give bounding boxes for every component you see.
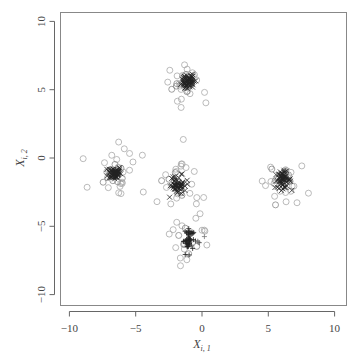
outlier-point	[127, 150, 133, 156]
x-tick-label: −10	[61, 322, 79, 334]
core-point	[180, 171, 185, 176]
y-tick-label: −5	[35, 220, 47, 232]
outlier-point	[177, 255, 183, 261]
outlier-point	[193, 215, 199, 221]
outlier-point	[105, 185, 111, 191]
outlier-point	[193, 201, 199, 207]
outlier-point	[154, 199, 160, 205]
outlier-point	[174, 73, 180, 79]
outlier-point	[159, 178, 165, 184]
outlier-point	[127, 167, 133, 173]
outlier-point	[167, 67, 173, 73]
outlier-point	[174, 219, 180, 225]
outlier-point	[109, 152, 115, 158]
outlier-point	[202, 89, 208, 95]
core-point	[202, 234, 207, 239]
y-tick-label: 5	[35, 86, 47, 92]
outlier-point	[176, 232, 182, 238]
outlier-point	[269, 166, 275, 172]
outlier-point	[139, 152, 145, 158]
data-points	[80, 62, 311, 269]
cluster-right	[259, 163, 311, 208]
outlier-point	[80, 156, 86, 162]
outlier-point	[140, 189, 146, 195]
y-axis: −10−50510	[35, 15, 55, 303]
x-tick-label: 5	[266, 322, 272, 334]
cluster-bottom	[170, 211, 210, 269]
outlier-point	[177, 263, 183, 269]
outlier-point	[84, 184, 90, 190]
cluster-left	[80, 139, 146, 197]
y-axis-title: Xi, 2	[13, 149, 29, 168]
outlier-point	[299, 163, 305, 169]
outlier-point	[187, 190, 193, 196]
outlier-point	[191, 168, 197, 174]
outlier-point	[201, 194, 207, 200]
outlier-point	[178, 104, 184, 110]
cluster-top	[165, 62, 209, 111]
outlier-point	[121, 146, 127, 152]
outlier-point	[130, 159, 136, 165]
scatter-chart: −10−50510 −10−50510 Xi, 1 Xi, 2	[0, 0, 357, 355]
x-tick-label: 0	[199, 322, 205, 334]
core-point	[167, 195, 172, 200]
x-axis: −10−50510	[61, 312, 341, 334]
outlier-point	[194, 195, 200, 201]
outlier-point	[305, 190, 311, 196]
outlier-point	[165, 79, 171, 85]
outlier-point	[186, 251, 192, 257]
outlier-point	[168, 201, 174, 207]
plot-frame	[61, 13, 347, 306]
x-tick-label: 10	[329, 322, 341, 334]
x-axis-title: Xi, 1	[192, 337, 211, 353]
outlier-point	[204, 242, 210, 248]
outlier-point	[173, 245, 179, 251]
outlier-point	[273, 202, 279, 208]
outlier-point	[294, 200, 300, 206]
outlier-point	[101, 160, 107, 166]
outlier-point	[180, 136, 186, 142]
outlier-point	[272, 193, 278, 199]
outlier-point	[170, 227, 176, 233]
outlier-point	[283, 199, 289, 205]
outlier-point	[100, 179, 106, 185]
core-point	[190, 246, 195, 251]
outlier-point	[263, 183, 269, 189]
outlier-point	[203, 100, 209, 106]
core-point	[196, 240, 201, 245]
y-tick-label: 10	[35, 15, 47, 27]
outlier-point	[184, 257, 190, 263]
y-tick-label: 0	[35, 155, 47, 161]
x-tick-label: −5	[130, 322, 142, 334]
y-tick-label: −10	[35, 286, 47, 304]
outlier-point	[116, 139, 122, 145]
